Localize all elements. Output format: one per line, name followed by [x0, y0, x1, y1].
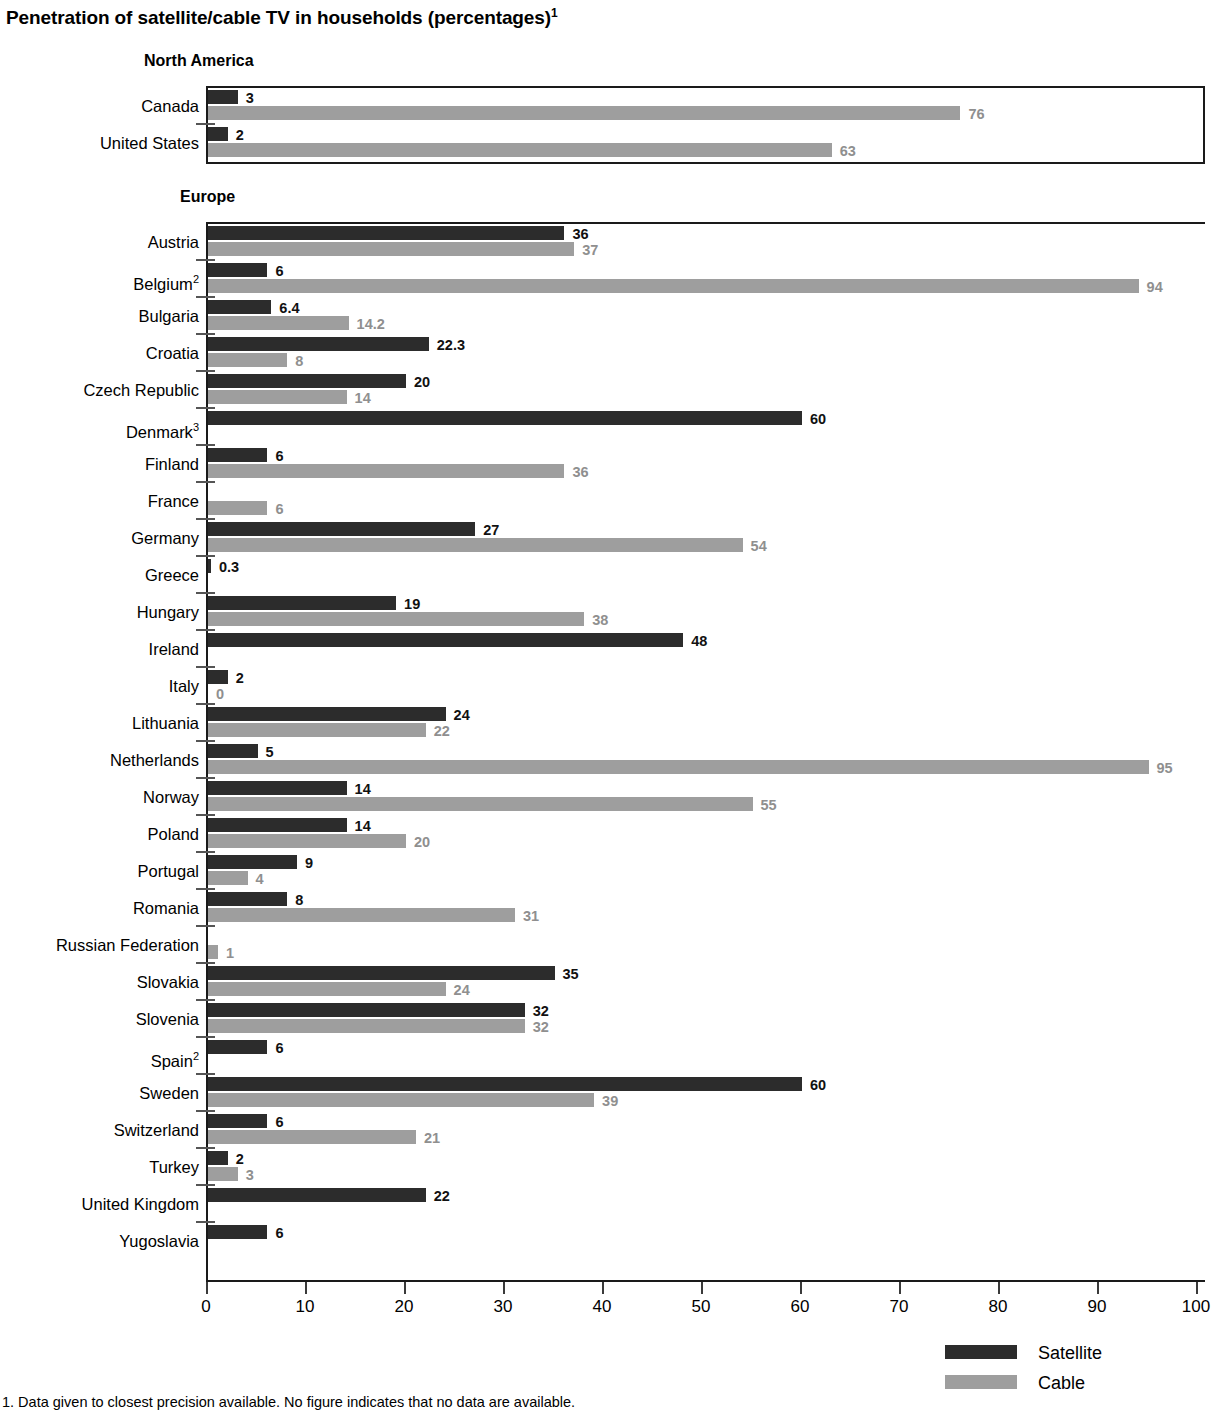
- bar-value-satellite: 9: [305, 856, 313, 870]
- category-tick: [196, 592, 215, 594]
- x-axis-tick-label: 100: [1166, 1297, 1214, 1317]
- bar-cable: [208, 279, 1139, 293]
- bar-cable: [208, 106, 960, 120]
- bar-value-cable: 1: [226, 946, 234, 960]
- chart-row: Spain26: [0, 1038, 1214, 1075]
- x-axis-tick: [404, 1282, 406, 1294]
- bar-cable: [208, 871, 248, 885]
- bar-cable: [208, 353, 287, 367]
- bar-cable: [208, 464, 564, 478]
- bar-value-cable: 14: [355, 391, 371, 405]
- bar-satellite: [208, 522, 475, 536]
- bar-cable: [208, 723, 426, 737]
- bar-value-satellite: 6: [275, 264, 283, 278]
- bar-value-satellite: 6: [275, 1041, 283, 1055]
- chart-row: Germany2754: [0, 520, 1214, 557]
- bar-satellite: [208, 1077, 802, 1091]
- bar-value-cable: 20: [414, 835, 430, 849]
- bar-value-satellite: 14: [355, 782, 371, 796]
- x-axis-tick: [1097, 1282, 1099, 1294]
- x-axis-tick-label: 50: [671, 1297, 731, 1317]
- legend-label-satellite: Satellite: [1038, 1338, 1102, 1368]
- bar-satellite: [208, 855, 297, 869]
- bar-value-cable: 94: [1147, 280, 1163, 294]
- x-axis-tick: [503, 1282, 505, 1294]
- category-tick: [196, 814, 215, 816]
- row-label: United States: [0, 125, 199, 162]
- bar-cable: [208, 760, 1149, 774]
- bar-satellite: [208, 1040, 267, 1054]
- row-label: Slovenia: [0, 1001, 199, 1038]
- x-axis-tick-label: 10: [275, 1297, 335, 1317]
- x-axis-tick: [899, 1282, 901, 1294]
- bar-value-satellite: 2: [236, 671, 244, 685]
- row-label: Poland: [0, 816, 199, 853]
- group-heading-europe: Europe: [180, 188, 235, 206]
- category-tick: [196, 629, 215, 631]
- bar-value-satellite: 0.3: [219, 560, 239, 574]
- bar-value-satellite: 6: [275, 449, 283, 463]
- bar-cable: [208, 143, 832, 157]
- bar-value-cable: 0: [216, 687, 224, 701]
- bar-value-cable: 4: [256, 872, 264, 886]
- row-label: Germany: [0, 520, 199, 557]
- group-heading-north-america: North America: [144, 52, 254, 70]
- x-axis-tick-label: 60: [770, 1297, 830, 1317]
- bar-value-satellite: 8: [295, 893, 303, 907]
- legend-swatch-cable: [945, 1375, 1017, 1389]
- bar-value-cable: 14.2: [357, 317, 385, 331]
- bar-satellite: [208, 226, 564, 240]
- chart-row: Norway1455: [0, 779, 1214, 816]
- bar-satellite: [208, 1151, 228, 1165]
- chart-row: Slovenia3232: [0, 1001, 1214, 1038]
- bar-satellite: [208, 596, 396, 610]
- row-label: Russian Federation: [0, 927, 199, 964]
- bar-satellite: [208, 892, 287, 906]
- bar-satellite: [208, 127, 228, 141]
- chart-row: Turkey23: [0, 1149, 1214, 1186]
- bar-satellite: [208, 374, 406, 388]
- row-label: Yugoslavia: [0, 1223, 199, 1260]
- category-tick: [196, 444, 215, 446]
- bar-value-satellite: 36: [572, 227, 588, 241]
- x-axis-tick: [998, 1282, 1000, 1294]
- bar-cable: [208, 1167, 238, 1181]
- x-axis-tick-label: 40: [572, 1297, 632, 1317]
- bar-satellite: [208, 90, 238, 104]
- bar-satellite: [208, 670, 228, 684]
- category-tick: [196, 740, 215, 742]
- row-label: Turkey: [0, 1149, 199, 1186]
- row-label: Belgium2: [0, 261, 199, 303]
- bar-value-satellite: 19: [404, 597, 420, 611]
- bar-value-cable: 31: [523, 909, 539, 923]
- row-label: Switzerland: [0, 1112, 199, 1149]
- bar-value-satellite: 27: [483, 523, 499, 537]
- category-tick: [196, 555, 215, 557]
- row-label: Lithuania: [0, 705, 199, 742]
- x-axis-tick: [305, 1282, 307, 1294]
- chart-row: Lithuania2422: [0, 705, 1214, 742]
- chart-row: Belgium2694: [0, 261, 1214, 298]
- bar-cable: [208, 1130, 416, 1144]
- chart-row: United Kingdom22: [0, 1186, 1214, 1223]
- bar-satellite: [208, 559, 211, 573]
- category-tick: [196, 888, 215, 890]
- chart-row: Finland636: [0, 446, 1214, 483]
- bar-value-satellite: 22.3: [437, 338, 465, 352]
- bar-satellite: [208, 1003, 525, 1017]
- row-label-footnote-marker: 2: [193, 273, 199, 285]
- row-label: Czech Republic: [0, 372, 199, 409]
- page-title-text: Penetration of satellite/cable TV in hou…: [6, 7, 551, 28]
- chart-row: Ireland48: [0, 631, 1214, 668]
- x-axis-line: [206, 1280, 1205, 1282]
- chart-row: Switzerland621: [0, 1112, 1214, 1149]
- row-label: Austria: [0, 224, 199, 261]
- bar-cable: [208, 945, 218, 959]
- category-tick: [196, 1147, 215, 1149]
- category-tick: [196, 999, 215, 1001]
- x-axis-tick: [800, 1282, 802, 1294]
- category-tick: [196, 1221, 215, 1223]
- bar-value-cable: 55: [761, 798, 777, 812]
- bar-value-satellite: 60: [810, 1078, 826, 1092]
- bar-value-satellite: 14: [355, 819, 371, 833]
